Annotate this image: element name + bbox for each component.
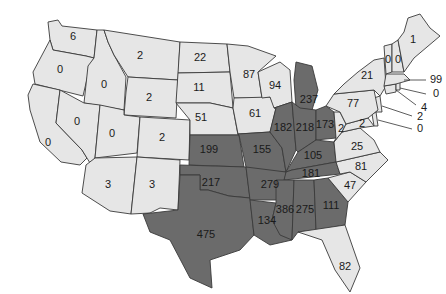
state-value-ct: 4 [421, 101, 427, 113]
state-value-de: 0 [417, 122, 423, 134]
state-value-me: 1 [410, 33, 416, 45]
state-value-pa: 77 [347, 97, 359, 109]
state-value-or: 0 [57, 63, 63, 75]
leader-line-nj [382, 106, 412, 116]
state-value-ky: 105 [304, 149, 322, 161]
state-value-sd: 11 [193, 81, 204, 93]
state-value-il: 182 [274, 121, 292, 133]
leader-line-de [378, 120, 412, 129]
state-value-ks: 199 [200, 143, 218, 155]
state-value-vt: 0 [385, 53, 391, 65]
state-value-fl: 82 [339, 260, 351, 272]
state-value-mo: 155 [253, 143, 271, 155]
state-value-va: 25 [351, 140, 363, 152]
state-value-id: 0 [101, 78, 107, 90]
state-value-wy: 2 [146, 91, 152, 103]
state-value-sc: 47 [344, 179, 356, 191]
state-value-nd: 22 [194, 51, 206, 63]
state-value-ga: 111 [323, 199, 340, 211]
state-value-nh: 0 [395, 53, 401, 65]
state-value-nv: 0 [74, 115, 80, 127]
state-value-ut: 0 [109, 127, 115, 139]
state-value-md: 2 [359, 117, 365, 129]
state-value-tn: 181 [302, 167, 320, 179]
state-value-wv: 2 [338, 122, 344, 134]
state-value-mt: 2 [137, 49, 143, 61]
state-value-ms: 386 [276, 203, 294, 215]
state-me [398, 14, 440, 72]
state-value-wi: 94 [269, 79, 281, 91]
state-value-az: 3 [105, 178, 111, 190]
state-value-in: 218 [296, 121, 314, 133]
state-value-nm: 3 [149, 178, 155, 190]
state-nm [131, 157, 180, 214]
leader-line-ct [396, 90, 416, 105]
state-value-al: 275 [296, 203, 314, 215]
leader-line-ri [400, 88, 426, 94]
state-value-nc: 81 [355, 160, 367, 172]
state-fl [298, 225, 360, 292]
state-value-tx: 475 [197, 228, 215, 240]
state-value-ca: 0 [45, 136, 51, 148]
state-value-la: 134 [258, 214, 276, 226]
state-value-ma: 99 [430, 73, 442, 85]
state-value-ne: 51 [195, 111, 207, 123]
state-value-wa: 6 [70, 30, 76, 42]
state-value-mn: 87 [243, 68, 255, 80]
state-value-mi: 237 [300, 93, 318, 105]
state-value-oh: 173 [316, 118, 334, 130]
us-state-map: 6000022023322115119921747587611552791349… [0, 0, 446, 294]
state-value-ok: 217 [202, 176, 220, 188]
state-value-ri: 0 [433, 87, 439, 99]
state-value-ar: 279 [261, 178, 279, 190]
state-value-co: 2 [159, 131, 165, 143]
state-value-ny: 21 [361, 69, 373, 81]
state-value-ia: 61 [249, 107, 261, 119]
